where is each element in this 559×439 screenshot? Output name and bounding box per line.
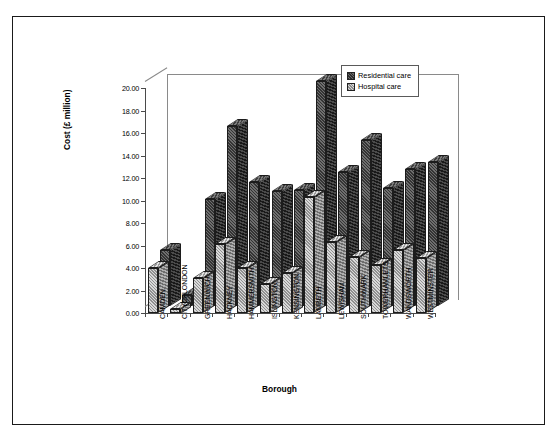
y-axis-title: Cost (£ million) [62,30,72,150]
chart-legend: Residential care Hospital care [341,65,419,97]
x-tick-label: CITYOFLONDON [181,265,188,319]
bar-front-face [215,244,225,313]
y-tick-label: 0.00 [105,309,139,318]
x-tick-label: WANDSWORTH [405,268,412,319]
bar-front-face [304,197,314,313]
bar-front-face [237,268,247,313]
bar-hospital [282,273,292,314]
bar-hospital [237,268,247,313]
x-tick-label: HAMMERSMITH [248,267,255,319]
bar-side-face [170,243,181,306]
bar-chart: Cost (£ million) 0.002.004.006.008.0010.… [0,0,559,439]
y-tick-label: 14.00 [105,152,139,161]
bar-hospital [371,265,381,313]
bar-hospital [148,268,158,313]
x-tick-label: CAMDEN [159,289,166,319]
bar-hospital [393,250,403,313]
bar-front-face [326,242,336,313]
x-tick-label: TOWERHAMLETS [382,261,389,319]
bar-front-face [260,284,270,313]
bar-hospital [326,242,336,313]
hospital-swatch-icon [347,83,355,91]
bar-side-face [438,155,449,306]
bar-hospital [193,278,203,313]
y-tick-label: 18.00 [105,107,139,116]
y-tick-label: 2.00 [105,287,139,296]
y-axis-line [145,88,146,313]
bar-front-face [371,265,381,313]
bar-hospital [260,284,270,313]
legend-item-hospital: Hospital care [347,81,411,92]
bar-hospital [215,244,225,313]
x-axis-title: Borough [0,384,559,394]
legend-label-residential: Residential care [358,70,411,81]
x-tick-label: HACKNEY [226,286,233,319]
chart-page: Cost (£ million) 0.002.004.006.008.0010.… [0,0,559,439]
x-axis-line [145,313,435,314]
y-tick-label: 12.00 [105,174,139,183]
residential-swatch-icon [347,72,355,80]
y-tick-label: 10.00 [105,197,139,206]
y-tick-label: 6.00 [105,242,139,251]
bar-front-face [349,257,359,313]
y-tick-label: 4.00 [105,264,139,273]
bar-front-face [148,268,158,313]
bar-hospital [304,197,314,313]
bar-front-face [282,273,292,314]
bar-front-face [193,278,203,313]
bar-hospital [416,258,426,313]
y-tick-label: 8.00 [105,219,139,228]
legend-item-residential: Residential care [347,70,411,81]
x-tick-label: WESTMINSTER [427,268,434,319]
bar-front-face [393,250,403,313]
bar-hospital [349,257,359,313]
plot-top-edge [145,67,168,82]
y-tick-label: 20.00 [105,84,139,93]
x-tick-mark [435,313,436,317]
x-tick-label: LAMBETH [315,287,322,319]
legend-label-hospital: Hospital care [358,81,401,92]
bar-front-face [416,258,426,313]
y-tick-label: 16.00 [105,129,139,138]
